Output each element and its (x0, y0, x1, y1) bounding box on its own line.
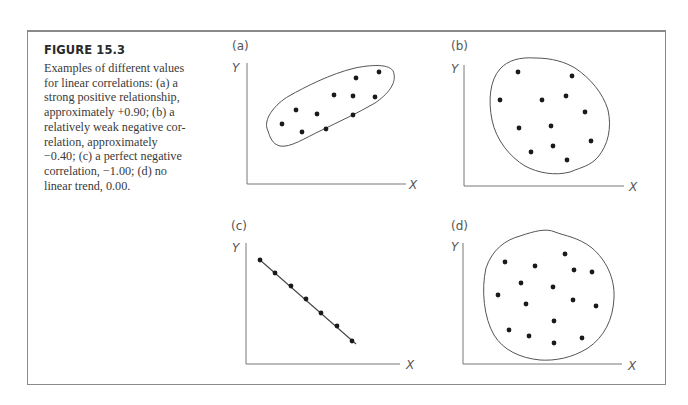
data-points (280, 70, 382, 135)
x-axis-label: X (627, 359, 637, 373)
panel-a: (a) Y X (232, 39, 418, 192)
panel-b: (b) Y X (451, 39, 638, 194)
panel-a-label: (a) (232, 39, 249, 53)
x-axis-label: X (405, 358, 415, 372)
y-axis-label: Y (232, 241, 241, 255)
x-axis-label: X (408, 178, 418, 192)
scatter-plots: (a) Y X (b) Y X (c) Y X (0, 0, 688, 405)
enclosure-circle (484, 230, 614, 360)
y-axis-label: Y (451, 240, 460, 254)
panel-c-label: (c) (231, 219, 247, 233)
data-points (498, 70, 594, 163)
panel-d: (d) Y X (451, 219, 637, 373)
x-axis-label: X (628, 180, 638, 194)
y-axis-label: Y (451, 62, 460, 76)
axes (463, 243, 622, 364)
panel-b-label: (b) (451, 39, 468, 53)
enclosure-ellipse (266, 66, 394, 147)
enclosure-blob (490, 58, 609, 174)
axes (247, 63, 406, 184)
y-axis-label: Y (232, 61, 241, 75)
panel-d-label: (d) (451, 219, 468, 233)
panel-c: (c) Y X (231, 219, 415, 372)
axes (464, 65, 624, 186)
data-points (496, 252, 599, 346)
axes (246, 243, 400, 364)
